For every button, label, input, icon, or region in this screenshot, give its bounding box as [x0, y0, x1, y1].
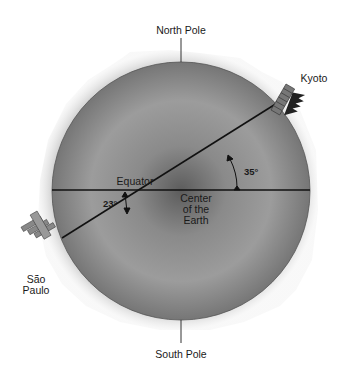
center-label-3: Earth	[183, 214, 208, 226]
earth-diagram: North Pole South Pole Equator Center of …	[0, 0, 342, 377]
north-pole-label: North Pole	[156, 24, 206, 36]
kyoto-label: Kyoto	[301, 72, 328, 84]
globe	[52, 62, 310, 320]
south-pole-label: South Pole	[155, 348, 207, 360]
angle-label-sao-paulo: 23°	[103, 198, 118, 209]
equator-label: Equator	[117, 175, 154, 187]
sao-paulo-label-2: Paulo	[23, 284, 50, 296]
angle-label-kyoto: 35°	[244, 166, 259, 177]
